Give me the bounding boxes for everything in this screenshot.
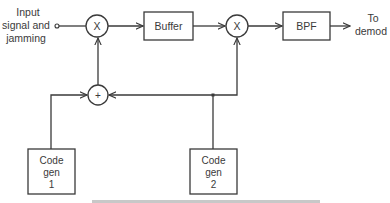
- wire-codegen1-to-summer: [51, 95, 87, 149]
- output-label: To demod: [355, 12, 387, 37]
- input-label-line-2: signal and: [2, 19, 50, 31]
- block-diagram: Input signal and jamming X Buffer X BPF …: [0, 0, 390, 203]
- code-gen-2-line-1: Code: [202, 155, 226, 166]
- output-label-line-1: To: [367, 12, 378, 24]
- input-label-line-1: Input: [16, 6, 39, 18]
- code-gen-2-line-3: 2: [211, 179, 217, 190]
- input-label: Input signal and jamming: [2, 6, 50, 44]
- mixer-2-symbol: X: [233, 20, 240, 32]
- output-label-line-2: demod: [355, 25, 387, 37]
- mixer-1-symbol: X: [93, 20, 100, 32]
- mixer-2: X: [226, 15, 248, 37]
- wire-junction-to-mixer2: [213, 38, 237, 95]
- summer-symbol: +: [95, 90, 101, 101]
- bpf-label: BPF: [296, 20, 316, 32]
- code-gen-1-block: Code gen 1: [28, 149, 75, 194]
- code-gen-1-line-2: gen: [43, 167, 60, 178]
- code-gen-2-block: Code gen 2: [190, 149, 237, 194]
- code-gen-2-line-2: gen: [205, 167, 222, 178]
- buffer-block: Buffer: [144, 12, 193, 40]
- input-terminal: [55, 24, 59, 28]
- buffer-label: Buffer: [155, 20, 183, 32]
- summer: +: [88, 85, 108, 105]
- figure-caption-cutoff: [92, 200, 320, 203]
- input-label-line-3: jamming: [5, 32, 46, 44]
- mixer-1: X: [86, 15, 108, 37]
- code-gen-1-line-3: 1: [49, 179, 55, 190]
- code-gen-1-line-1: Code: [40, 155, 64, 166]
- bpf-block: BPF: [283, 12, 330, 40]
